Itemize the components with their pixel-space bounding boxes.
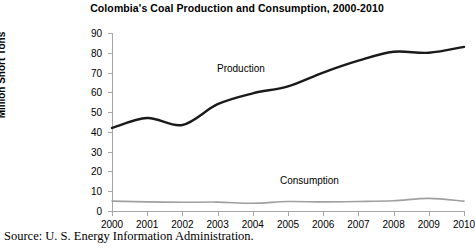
source-caption: Source: U. S. Energy Information Adminis… [4, 229, 254, 244]
y-tick-label: 90 [78, 28, 102, 39]
x-tick-mark [182, 211, 183, 216]
production-line [112, 47, 464, 128]
chart-figure: Colombia's Coal Production and Consumpti… [0, 0, 474, 228]
x-tick-label: 2007 [347, 219, 369, 230]
x-tick-mark [147, 211, 148, 216]
x-tick-mark [218, 211, 219, 216]
x-tick-label: 2008 [382, 219, 404, 230]
x-tick-mark [288, 211, 289, 216]
chart-title: Colombia's Coal Production and Consumpti… [0, 2, 474, 14]
x-tick-label: 2005 [277, 219, 299, 230]
y-tick-label: 70 [78, 67, 102, 78]
x-tick-mark [358, 211, 359, 216]
x-tick-mark [394, 211, 395, 216]
y-tick-label: 50 [78, 107, 102, 118]
y-tick-label: 0 [78, 206, 102, 217]
x-tick-mark [429, 211, 430, 216]
x-tick-mark [112, 211, 113, 216]
production-label: Production [217, 63, 265, 74]
y-axis-title: Million Short Tons [0, 10, 10, 140]
y-tick-label: 10 [78, 186, 102, 197]
consumption-line [112, 198, 464, 203]
x-tick-label: 2006 [312, 219, 334, 230]
y-tick-label: 60 [78, 87, 102, 98]
x-tick-mark [323, 211, 324, 216]
y-tick-label: 30 [78, 146, 102, 157]
x-tick-label: 2009 [418, 219, 440, 230]
consumption-label: Consumption [280, 175, 339, 186]
y-tick-label: 20 [78, 166, 102, 177]
x-tick-mark [253, 211, 254, 216]
x-tick-mark [464, 211, 465, 216]
x-tick-label: 2010 [453, 219, 475, 230]
plot-area: 0102030405060708090 20002001200220032004… [112, 33, 464, 211]
y-tick-label: 40 [78, 126, 102, 137]
y-tick-label: 80 [78, 47, 102, 58]
